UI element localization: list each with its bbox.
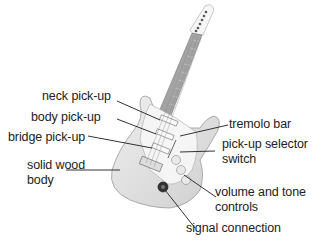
label-volume-tone-line2: controls xyxy=(215,200,258,214)
guitar-diagram: neck pick-up body pick-up bridge pick-up… xyxy=(0,0,314,241)
label-volume-tone-line1: volume and tone xyxy=(215,185,306,199)
guitar-body xyxy=(111,36,219,208)
label-bridge-pickup: bridge pick-up xyxy=(8,130,85,144)
neck xyxy=(158,33,202,118)
label-solid-wood-body-line1: solid wood xyxy=(27,158,85,172)
label-neck-pickup: neck pick-up xyxy=(42,89,111,103)
label-body-pickup: body pick-up xyxy=(31,110,101,124)
label-signal-connection: signal connection xyxy=(186,221,281,235)
label-pickup-selector-line2: switch xyxy=(222,152,256,166)
headstock xyxy=(190,5,214,35)
label-solid-wood-body-line2: body xyxy=(27,173,54,187)
label-pickup-selector-line1: pick-up selector xyxy=(222,137,308,151)
label-tremolo-bar: tremolo bar xyxy=(229,117,291,131)
